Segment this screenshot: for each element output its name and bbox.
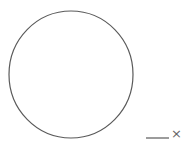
segment-label-x: × <box>171 127 182 140</box>
circle-shape <box>9 11 133 138</box>
diagram-canvas <box>0 0 186 150</box>
